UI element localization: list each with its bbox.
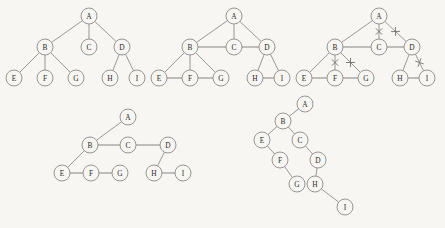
node-circle-H [146, 165, 162, 181]
edge-general-tree-B-E [20, 53, 40, 73]
node-circle-G [112, 165, 128, 181]
node-circle-H [392, 70, 408, 86]
node-circle-E [6, 70, 22, 86]
node-circle-D [310, 152, 326, 168]
node-tree-with-sibling-links-F: F [182, 70, 198, 86]
node-tree-with-sibling-links-C: C [226, 39, 242, 55]
node-tree-with-cut-parent-edges-F: F [327, 70, 343, 86]
node-general-tree-C: C [81, 39, 97, 55]
edge-general-tree-A-B [52, 21, 83, 43]
node-circle-C [292, 132, 308, 148]
node-circle-I [274, 70, 290, 86]
node-rotated-binary-tree-F: F [272, 152, 288, 168]
node-rotated-binary-tree-A: A [297, 96, 313, 112]
edge-rotated-binary-tree-F-G [285, 167, 293, 178]
node-circle-B [82, 137, 98, 153]
node-circle-B [327, 39, 343, 55]
edge-rotated-binary-tree-B-E [268, 126, 277, 134]
node-circle-C [226, 39, 242, 55]
node-tree-with-cut-parent-edges-C: C [371, 39, 387, 55]
node-rotated-binary-tree-D: D [310, 152, 326, 168]
node-left-child-right-sibling-layout-D: D [160, 137, 176, 153]
node-left-child-right-sibling-layout-H: H [146, 165, 162, 181]
node-circle-F [272, 152, 288, 168]
node-left-child-right-sibling-layout-I: I [175, 165, 191, 181]
node-circle-H [307, 176, 323, 192]
node-circle-A [226, 8, 242, 24]
node-circle-I [129, 70, 145, 86]
node-circle-A [120, 109, 136, 125]
edge-tree-with-cut-parent-edges-A-B [342, 21, 373, 43]
edge-rotated-binary-tree-H-I [321, 189, 338, 202]
node-circle-E [151, 70, 167, 86]
edge-tree-with-sibling-links-A-B [197, 21, 228, 43]
node-circle-D [160, 137, 176, 153]
node-circle-E [296, 70, 312, 86]
nodes-layer: ABCDEFGHIABCDEFGHIABCDEFGHIABCDEFGHIABCE… [6, 8, 435, 215]
node-rotated-binary-tree-E: E [254, 132, 270, 148]
node-circle-C [120, 137, 136, 153]
node-circle-A [81, 8, 97, 24]
node-left-child-right-sibling-layout-E: E [54, 165, 70, 181]
node-circle-E [254, 132, 270, 148]
node-circle-I [337, 199, 353, 215]
node-circle-E [54, 165, 70, 181]
edge-rotated-binary-tree-D-H [316, 168, 317, 176]
node-general-tree-A: A [81, 8, 97, 24]
node-circle-D [404, 39, 420, 55]
node-rotated-binary-tree-C: C [292, 132, 308, 148]
edges-layer [20, 21, 424, 203]
node-general-tree-B: B [37, 39, 53, 55]
edge-tree-with-cut-parent-edges-B-E [310, 53, 330, 73]
node-rotated-binary-tree-H: H [307, 176, 323, 192]
node-general-tree-I: I [129, 70, 145, 86]
edge-tree-with-sibling-links-D-I [270, 54, 278, 71]
edge-tree-with-sibling-links-A-D [240, 21, 261, 41]
edge-rotated-binary-tree-A-B [289, 109, 298, 116]
figure-page: ABCDEFGHIABCDEFGHIABCDEFGHIABCDEFGHIABCE… [0, 0, 445, 228]
node-circle-G [289, 176, 305, 192]
node-tree-with-sibling-links-A: A [226, 8, 242, 24]
node-circle-I [175, 165, 191, 181]
edge-left-child-right-sibling-layout-D-H [158, 152, 165, 166]
node-tree-with-cut-parent-edges-H: H [392, 70, 408, 86]
node-general-tree-G: G [68, 70, 84, 86]
node-circle-H [247, 70, 263, 86]
node-circle-F [37, 70, 53, 86]
node-tree-with-sibling-links-H: H [247, 70, 263, 86]
node-tree-with-cut-parent-edges-G: G [358, 70, 374, 86]
node-tree-with-sibling-links-B: B [182, 39, 198, 55]
node-circle-C [371, 39, 387, 55]
node-tree-with-cut-parent-edges-B: B [327, 39, 343, 55]
node-circle-G [358, 70, 374, 86]
node-circle-D [114, 39, 130, 55]
node-circle-B [275, 113, 291, 129]
node-tree-with-sibling-links-I: I [274, 70, 290, 86]
node-rotated-binary-tree-G: G [289, 176, 305, 192]
edge-general-tree-A-D [95, 21, 116, 41]
node-circle-F [182, 70, 198, 86]
edge-rotated-binary-tree-E-F [267, 146, 274, 154]
node-circle-B [37, 39, 53, 55]
node-general-tree-F: F [37, 70, 53, 86]
node-left-child-right-sibling-layout-F: F [83, 165, 99, 181]
node-rotated-binary-tree-I: I [337, 199, 353, 215]
edge-rotated-binary-tree-C-D [305, 146, 312, 154]
node-circle-D [259, 39, 275, 55]
node-circle-I [419, 70, 435, 86]
node-left-child-right-sibling-layout-C: C [120, 137, 136, 153]
node-left-child-right-sibling-layout-B: B [82, 137, 98, 153]
node-tree-with-sibling-links-E: E [151, 70, 167, 86]
node-tree-with-cut-parent-edges-D: D [404, 39, 420, 55]
node-circle-F [327, 70, 343, 86]
cut-mark-tree-with-cut-parent-edges-D-I [416, 59, 424, 67]
edge-left-child-right-sibling-layout-B-E [68, 151, 85, 168]
edge-tree-with-sibling-links-B-G [196, 53, 216, 73]
node-circle-A [371, 8, 387, 24]
edge-general-tree-B-G [51, 53, 71, 73]
edge-tree-with-cut-parent-edges-D-H [403, 54, 409, 70]
node-circle-B [182, 39, 198, 55]
edge-left-child-right-sibling-layout-A-B [96, 122, 121, 141]
tree-conversion-figure: ABCDEFGHIABCDEFGHIABCDEFGHIABCDEFGHIABCE… [0, 0, 445, 228]
edge-general-tree-D-I [125, 54, 133, 71]
